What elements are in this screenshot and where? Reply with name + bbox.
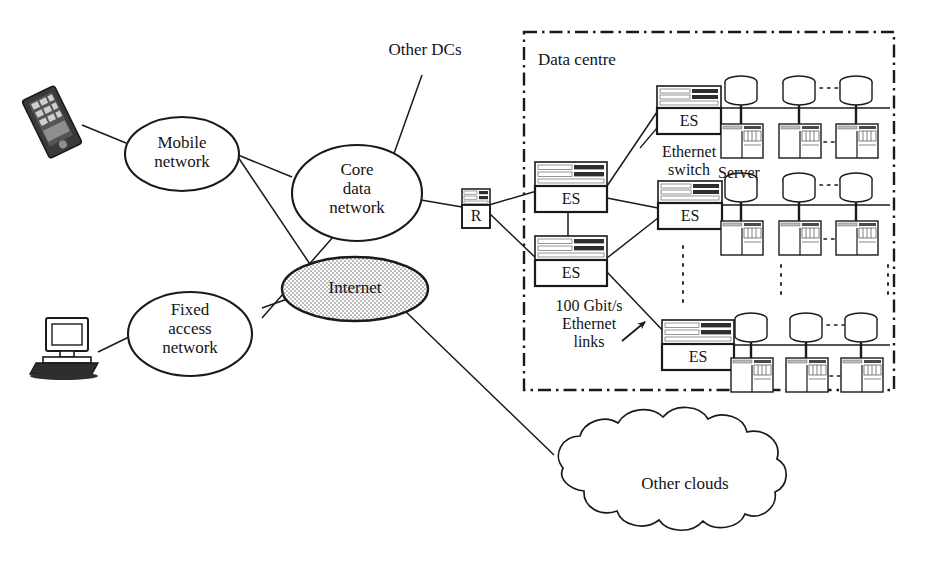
server-unit	[721, 173, 763, 255]
diagram-canvas: Mobile network Core data network Fixed a…	[0, 0, 930, 565]
links-annotation-arrow	[622, 322, 645, 341]
switch-es-bottom	[662, 320, 734, 370]
link-mobile-core	[238, 155, 292, 177]
server-unit	[836, 76, 878, 158]
ethernet-switch-leader	[640, 128, 657, 148]
server-unit	[786, 313, 828, 392]
ellipse-nodes	[125, 117, 428, 376]
link-eslowleft-esbottom	[607, 272, 668, 336]
server-unit	[721, 76, 763, 158]
switch-es-top	[657, 86, 721, 134]
server-row-middle	[721, 173, 878, 255]
node-core-data-network	[292, 145, 422, 241]
switch-es-mid-left	[535, 162, 607, 212]
server-unit	[779, 173, 821, 255]
node-other-clouds	[558, 407, 786, 530]
switch-es-low-left	[535, 236, 607, 286]
switch-es-mid-right	[658, 181, 722, 229]
link-router-es-mid-left	[489, 190, 540, 205]
router-node	[462, 189, 490, 228]
server-unit	[836, 173, 878, 255]
link-router-es-low-left	[489, 213, 540, 262]
node-internet	[282, 257, 428, 321]
link-esmidleft-esmidright	[607, 198, 658, 208]
server-unit	[841, 313, 883, 392]
link-eslowleft-esmidright	[607, 218, 658, 258]
node-mobile-network	[125, 117, 239, 191]
desktop-computer-icon	[30, 318, 98, 380]
link-esmidleft-estop	[607, 112, 657, 186]
link-smartphone-mobile	[82, 125, 126, 143]
server-unit	[731, 313, 773, 392]
server-unit	[779, 76, 821, 158]
link-desktop-fixed	[98, 336, 131, 352]
diagram-vector-layer	[0, 0, 930, 565]
smartphone-icon	[22, 85, 82, 158]
node-fixed-access-network	[128, 292, 252, 376]
link-internet-other-clouds	[404, 310, 554, 455]
link-core-router	[421, 200, 462, 207]
server-row-bottom	[731, 313, 883, 392]
server-row-top	[721, 76, 878, 158]
